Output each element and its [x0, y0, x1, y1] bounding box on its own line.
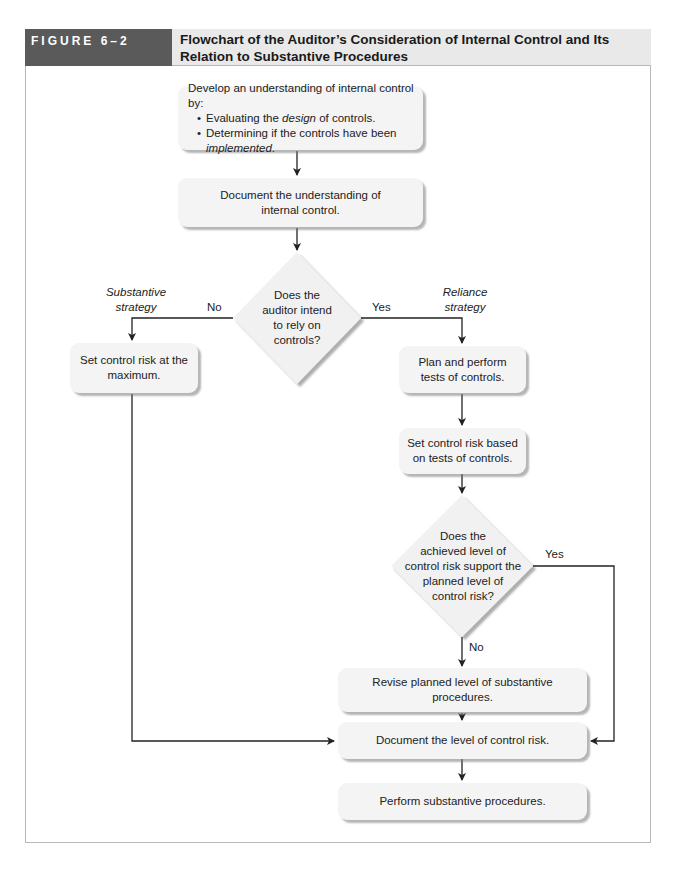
node-revise-substantive: Revise planned level of substantive proc…: [338, 668, 587, 712]
node-develop-understanding: Develop an understanding of internal con…: [178, 86, 423, 150]
decision-rely-line-2: auditor intend: [262, 303, 332, 318]
label-no-left: No: [207, 301, 222, 313]
label-reliance-strategy: Reliance strategy: [435, 285, 495, 315]
doc-understanding-line-2: internal control.: [261, 203, 340, 218]
decision-rely-line-3: to rely on: [273, 318, 320, 333]
set-based-line-2: on tests of controls.: [413, 451, 513, 466]
revise-text: Revise planned level of substantive proc…: [344, 675, 581, 705]
label-yes-right: Yes: [372, 301, 391, 313]
node-set-control-risk-max: Set control risk at the maximum.: [70, 343, 198, 393]
set-max-line-2: maximum.: [107, 368, 160, 383]
label-substantive-strategy: Substantive strategy: [98, 285, 174, 315]
node-document-understanding: Document the understanding of internal c…: [178, 178, 423, 227]
develop-bullets: Evaluating the design of controls. Deter…: [188, 111, 397, 156]
develop-bullet-implemented: Determining if the controls have beenimp…: [206, 126, 397, 156]
decision-rely-line-4: controls?: [274, 333, 321, 348]
label-yes-support: Yes: [545, 548, 564, 560]
perform-substantive-text: Perform substantive procedures.: [379, 794, 545, 809]
develop-bullet-design: Evaluating the design of controls.: [206, 111, 397, 126]
node-set-control-risk-based: Set control risk based on tests of contr…: [399, 428, 526, 474]
develop-intro: Develop an understanding of internal con…: [188, 81, 417, 111]
decision-support-line-3: control risk support the: [405, 559, 521, 574]
plan-perform-line-2: tests of controls.: [421, 370, 505, 385]
decision-support-line-1: Does the: [440, 529, 486, 544]
decision-rely-text: Does the auditor intend to rely on contr…: [247, 278, 347, 358]
set-based-line-1: Set control risk based: [407, 436, 518, 451]
node-plan-perform-tests: Plan and perform tests of controls.: [399, 346, 526, 393]
label-no-support: No: [469, 641, 484, 653]
node-document-control-risk: Document the level of control risk.: [338, 722, 587, 759]
decision-support-line-2: achieved level of: [420, 544, 506, 559]
decision-support-line-4: planned level of: [423, 574, 504, 589]
decision-rely-line-1: Does the: [274, 288, 320, 303]
doc-understanding-line-1: Document the understanding of: [220, 188, 380, 203]
set-max-line-1: Set control risk at the: [80, 353, 188, 368]
decision-support-text: Does the achieved level of control risk …: [397, 526, 529, 606]
plan-perform-line-1: Plan and perform: [418, 355, 506, 370]
document-level-text: Document the level of control risk.: [376, 733, 549, 748]
decision-support-line-5: control risk?: [432, 589, 494, 604]
node-perform-substantive: Perform substantive procedures.: [338, 783, 587, 820]
